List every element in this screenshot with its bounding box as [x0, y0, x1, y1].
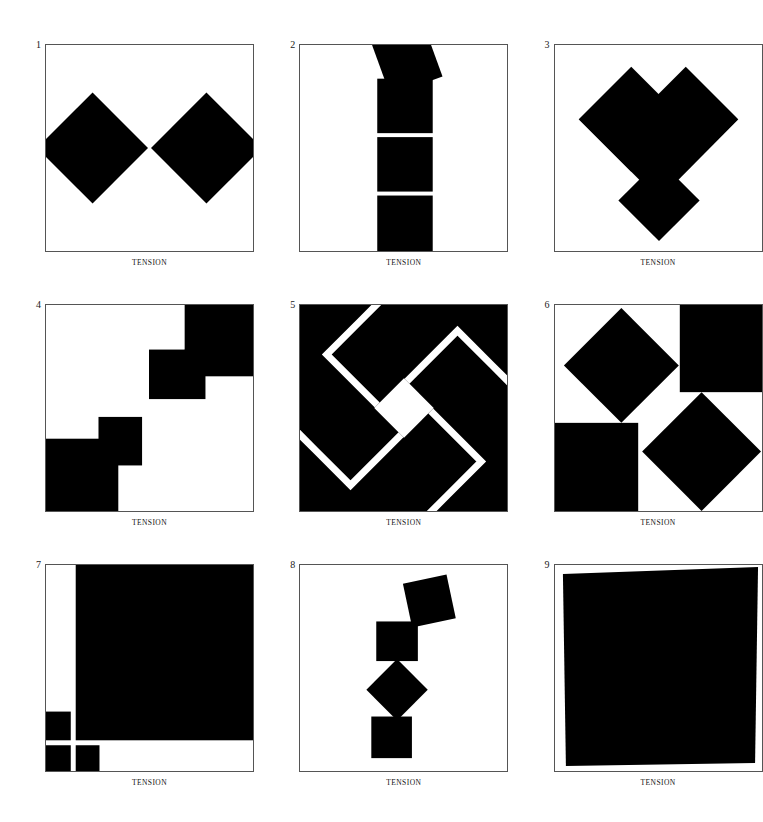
panel-4-artwork [46, 305, 253, 511]
diamond-third [367, 659, 428, 720]
panel-number: 2 [290, 40, 295, 50]
panel-3[interactable]: 3 TENSION [545, 30, 763, 290]
square-rotated-large [563, 567, 758, 766]
panel-5[interactable]: 5 TENSION [290, 290, 544, 550]
panel-number: 7 [36, 560, 41, 570]
panel-caption: TENSION [45, 258, 254, 267]
square-bottom [372, 717, 413, 759]
panel-frame [554, 44, 763, 252]
square-second [377, 621, 419, 661]
square-middle [378, 137, 433, 191]
panel-number: 3 [545, 40, 550, 50]
panel-9-artwork [555, 565, 762, 771]
panel-2-artwork [300, 45, 507, 251]
panel-7[interactable]: 7 TENSION [36, 550, 290, 810]
panel-caption: TENSION [45, 778, 254, 787]
square-top-right [679, 305, 761, 392]
diamond-left [46, 93, 148, 204]
panel-caption: TENSION [45, 518, 254, 527]
square-small-upper-left [46, 712, 71, 741]
square-bottom [378, 196, 433, 251]
panel-caption: TENSION [554, 258, 763, 267]
panel-frame [45, 304, 254, 512]
square-small-bottom-left [46, 745, 71, 771]
panel-7-artwork [46, 565, 253, 771]
panel-number: 8 [290, 560, 295, 570]
panel-4[interactable]: 4 TENSION [36, 290, 290, 550]
panel-frame [554, 564, 763, 772]
panel-number: 5 [290, 300, 295, 310]
square-tilted-top [403, 575, 456, 628]
panel-caption: TENSION [299, 258, 508, 267]
panel-frame [299, 304, 508, 512]
square-large [76, 565, 253, 740]
rect-top-right-lower [185, 350, 253, 377]
panel-8-artwork [300, 565, 507, 771]
panel-6[interactable]: 6 TENSION [545, 290, 763, 550]
panel-1-artwork [46, 45, 253, 251]
panel-frame [554, 304, 763, 512]
square-bottom-inner [98, 417, 142, 466]
panel-caption: TENSION [554, 518, 763, 527]
panel-3-artwork [555, 45, 762, 251]
panel-number: 6 [545, 300, 550, 310]
panel-9[interactable]: 9 TENSION [545, 550, 763, 810]
panel-6-artwork [555, 305, 762, 511]
diamond-lower [618, 160, 699, 241]
panel-number: 1 [36, 40, 41, 50]
panel-caption: TENSION [299, 778, 508, 787]
panel-caption: TENSION [554, 778, 763, 787]
panel-frame [299, 44, 508, 252]
panel-frame [45, 44, 254, 252]
square-small-bottom-right [76, 745, 100, 771]
panel-grid: 1 TENSION 2 [0, 0, 763, 822]
panel-number: 4 [36, 300, 41, 310]
diamond-right [151, 93, 253, 204]
panel-8[interactable]: 8 TENSION [290, 550, 544, 810]
panel-number: 9 [545, 560, 550, 570]
square-bottom-left [555, 423, 638, 511]
panel-2[interactable]: 2 TENSION [290, 30, 544, 290]
poster-sheet: 1 TENSION 2 [0, 0, 763, 822]
diamond-top-left [564, 308, 679, 423]
panel-caption: TENSION [299, 518, 508, 527]
panel-frame [299, 564, 508, 772]
panel-5-artwork [300, 305, 507, 511]
panel-frame [45, 564, 254, 772]
diamond-bottom-right [642, 392, 761, 511]
panel-1[interactable]: 1 TENSION [36, 30, 290, 290]
